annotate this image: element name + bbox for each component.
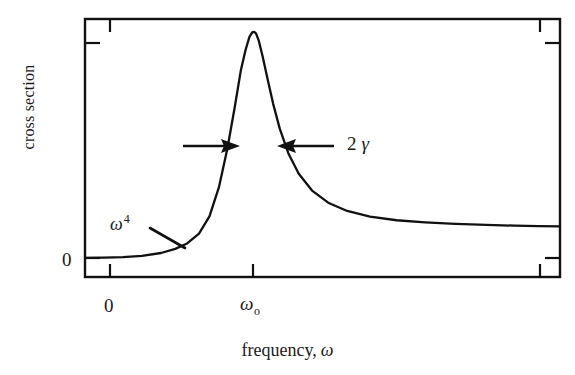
resonance-cross-section-figure: cross section 0 0 ωo frequency,ω ω4 2γ bbox=[0, 0, 575, 375]
fwhm-arrow-left bbox=[183, 139, 240, 153]
x-tick-label-omega-zero: ωo bbox=[240, 293, 260, 319]
two-gamma-annotation: 2γ bbox=[347, 133, 369, 155]
y-tick-label-zero: 0 bbox=[62, 249, 72, 271]
omega-base-glyph: ω bbox=[240, 293, 253, 314]
omega4-leader-line bbox=[150, 228, 185, 248]
plot-canvas bbox=[0, 0, 575, 375]
gamma-glyph: γ bbox=[362, 133, 370, 154]
omega-subscript-glyph: o bbox=[254, 304, 260, 318]
omega4-exponent-glyph: 4 bbox=[124, 212, 130, 226]
omega-fourth-annotation: ω4 bbox=[110, 212, 130, 235]
x-tick-label-zero: 0 bbox=[104, 295, 114, 317]
omega4-base-glyph: ω bbox=[110, 214, 123, 234]
x-axis-label-text: frequency, bbox=[241, 340, 316, 360]
x-axis-label-omega-glyph: ω bbox=[321, 340, 334, 360]
axis-frame bbox=[85, 19, 560, 277]
fwhm-arrow-right bbox=[277, 139, 334, 153]
y-axis-label: cross section bbox=[20, 42, 38, 172]
two-gamma-number: 2 bbox=[347, 133, 357, 154]
x-axis-label: frequency,ω bbox=[0, 340, 575, 361]
